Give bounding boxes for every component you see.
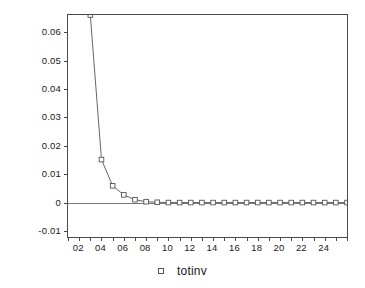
x-tick-label: 18 (251, 242, 262, 253)
x-tick-label: 20 (274, 242, 285, 253)
chart-legend: totinv (0, 264, 365, 278)
x-tick-label: 24 (318, 242, 329, 253)
y-tick-mark (64, 89, 68, 90)
y-tick-mark (64, 117, 68, 118)
x-tick-mark (101, 237, 102, 241)
x-tick-label: 22 (296, 242, 307, 253)
legend-label-totinv: totinv (177, 264, 207, 278)
y-tick-label: -0.01 (38, 225, 61, 236)
x-tick-label: 16 (229, 242, 240, 253)
y-tick-mark (64, 61, 68, 62)
x-tick-mark (113, 237, 114, 241)
x-tick-mark (146, 237, 147, 241)
x-tick-mark (90, 237, 91, 241)
y-tick-mark (64, 231, 68, 232)
x-tick-mark (258, 237, 259, 241)
x-tick-mark (68, 237, 69, 241)
x-axis-labels: 020406081012141618202224 (0, 242, 365, 258)
x-tick-label: 06 (117, 242, 128, 253)
x-tick-mark (79, 237, 80, 241)
y-tick-label: 0.03 (42, 111, 61, 122)
legend-open-square-icon (158, 268, 164, 274)
x-tick-mark (202, 237, 203, 241)
x-tick-mark (280, 237, 281, 241)
x-tick-label: 12 (184, 242, 195, 253)
x-tick-label: 02 (73, 242, 84, 253)
y-tick-mark (64, 174, 68, 175)
x-tick-label: 08 (140, 242, 151, 253)
plot-area (67, 14, 348, 238)
x-tick-mark (124, 237, 125, 241)
x-tick-label: 10 (162, 242, 173, 253)
x-tick-label: 14 (207, 242, 218, 253)
y-tick-mark (64, 146, 68, 147)
y-tick-label: 0.06 (42, 26, 61, 37)
x-tick-mark (291, 237, 292, 241)
x-tick-mark (336, 237, 337, 241)
x-tick-mark (157, 237, 158, 241)
y-tick-mark (64, 32, 68, 33)
x-tick-mark (180, 237, 181, 241)
y-tick-label: 0.05 (42, 54, 61, 65)
y-tick-label: 0.04 (42, 83, 61, 94)
x-tick-mark (168, 237, 169, 241)
y-tick-label: 0 (56, 196, 61, 207)
series-totinv (68, 15, 347, 237)
x-tick-mark (135, 237, 136, 241)
x-tick-mark (314, 237, 315, 241)
x-tick-mark (325, 237, 326, 241)
chart-container: 0.060.050.040.030.020.010-0.01 020406081… (0, 0, 365, 288)
x-tick-mark (213, 237, 214, 241)
x-tick-mark (347, 237, 348, 241)
x-tick-label: 04 (95, 242, 106, 253)
x-tick-mark (302, 237, 303, 241)
y-tick-mark (64, 203, 68, 204)
x-tick-mark (235, 237, 236, 241)
x-tick-mark (247, 237, 248, 241)
x-tick-mark (224, 237, 225, 241)
y-tick-label: 0.01 (42, 168, 61, 179)
x-tick-mark (269, 237, 270, 241)
y-tick-label: 0.02 (42, 139, 61, 150)
x-tick-mark (191, 237, 192, 241)
